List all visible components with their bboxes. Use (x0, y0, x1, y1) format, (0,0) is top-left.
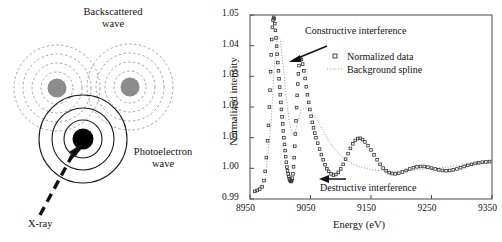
y-tick-label-1.05: 1.05 (222, 8, 239, 18)
x-tick-label-9050: 9050 (297, 203, 316, 213)
photoelectron-wave-label: Photoelectron wave (120, 146, 206, 170)
y-tick-label-0.99: 0.99 (222, 192, 239, 202)
y-tick-label-1.01: 1.01 (222, 131, 239, 141)
scattering-atom-left (48, 79, 67, 98)
schematic-canvas (0, 0, 215, 242)
y-tick-label-1.02: 1.02 (222, 100, 239, 110)
y-tick-label-1.00: 1.00 (222, 161, 239, 171)
backscattered-wave-label: Backscattered wave (58, 6, 168, 30)
scattering-schematic: Backscattered wave Photoelectron wave X-… (0, 0, 215, 242)
x-tick-label-9250: 9250 (418, 203, 437, 213)
legend-label-background-spline: Background spline (347, 64, 422, 75)
x-ray-arrow (40, 143, 83, 215)
xafs-spectrum-chart: Normalized intensity Energy (eV) Constru… (215, 0, 502, 242)
y-tick-label-1.04: 1.04 (222, 39, 239, 49)
normalized-data-markers (254, 16, 491, 192)
x-axis-title: Energy (eV) (304, 219, 414, 230)
xafs-figure: Backscattered wave Photoelectron wave X-… (0, 0, 502, 242)
annotation-destructive-interference: Destructive interference (320, 182, 416, 193)
constructive-arrow (289, 46, 327, 62)
scattering-atom-right (121, 78, 140, 97)
y-tick-label-1.03: 1.03 (222, 69, 239, 79)
x-tick-label-9150: 9150 (357, 203, 376, 213)
x-tick-label-8950: 8950 (236, 203, 255, 213)
annotation-constructive-interference: Constructive interference (305, 25, 406, 36)
legend-label-normalized-data: Normalized data (347, 51, 413, 62)
legend-marker-normalized-data (333, 54, 337, 58)
x-tick-label-9350: 9350 (478, 203, 497, 213)
x-ray-label: X-ray (28, 218, 78, 230)
absorbing-atom (73, 129, 94, 150)
